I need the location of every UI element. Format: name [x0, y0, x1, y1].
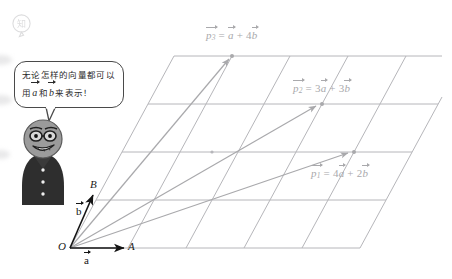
character-eye: [48, 134, 52, 138]
character-button: [41, 180, 44, 183]
figure-canvas: 知: [0, 0, 452, 279]
cartoon-teacher: [0, 0, 452, 279]
character-eye: [34, 134, 38, 138]
character-button: [41, 168, 44, 171]
character-button: [41, 192, 44, 195]
character-head: [24, 120, 62, 158]
